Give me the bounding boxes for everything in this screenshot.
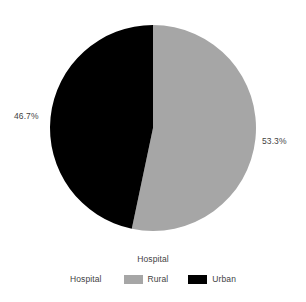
pie-slice-group	[50, 25, 256, 231]
legend: Hospital Hospital Rural Urban	[0, 252, 306, 302]
pie-chart-figure: 46.7% 53.3% Hospital Hospital Rural Urba…	[0, 0, 306, 302]
legend-row: Hospital Rural Urban	[0, 274, 306, 284]
legend-item-rural[interactable]: Rural	[124, 274, 169, 284]
data-label-rural: 53.3%	[262, 136, 287, 146]
legend-label-urban: Urban	[212, 274, 236, 284]
pie-plot-area: 46.7% 53.3%	[0, 0, 306, 250]
legend-swatch-urban-icon	[188, 275, 207, 284]
legend-item-urban[interactable]: Urban	[188, 274, 236, 284]
pie-svg	[0, 0, 306, 250]
legend-title: Hospital	[0, 254, 306, 264]
legend-swatch-rural-icon	[124, 275, 143, 284]
pie-slice-urban[interactable]	[50, 25, 153, 229]
data-label-urban: 46.7%	[14, 111, 39, 121]
legend-label-rural: Rural	[148, 274, 169, 284]
legend-axis-name: Hospital	[70, 274, 102, 284]
